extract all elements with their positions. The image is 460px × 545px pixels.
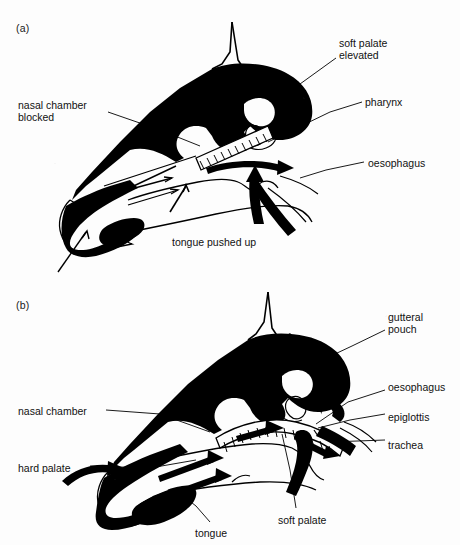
label-epiglottis: epiglottis <box>388 412 429 424</box>
label-oesophagus-b: oesophagus <box>388 382 445 394</box>
label-nasal-chamber-blocked: nasal chamber blocked <box>18 100 87 123</box>
figure-container: (a) <box>0 0 460 545</box>
panel-letter-b: (b) <box>16 299 29 311</box>
label-nasal-chamber: nasal chamber <box>18 406 87 418</box>
label-soft-palate-elevated: soft palate elevated <box>339 38 387 61</box>
label-oesophagus-a: oesophagus <box>368 158 425 170</box>
label-soft-palate: soft palate <box>278 515 326 527</box>
label-pharynx: pharynx <box>365 97 402 109</box>
label-hard-palate: hard palate <box>18 463 71 475</box>
panel-b-drawing <box>62 292 385 530</box>
label-gutteral-pouch: gutteral pouch <box>388 312 423 335</box>
panel-a-drawing <box>58 22 364 272</box>
label-trachea: trachea <box>388 440 423 452</box>
label-tongue-pushed-up: tongue pushed up <box>172 237 256 249</box>
bolus-arrows-a <box>206 160 296 236</box>
label-tongue: tongue <box>195 528 227 540</box>
airflow-arrows-b <box>158 420 284 498</box>
